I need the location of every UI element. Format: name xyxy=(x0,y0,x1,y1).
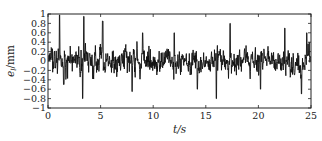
error-signal-line xyxy=(48,15,311,99)
x-tick-label: 5 xyxy=(98,110,104,121)
x-tick-label: 20 xyxy=(252,110,264,121)
x-axis-label: t/s xyxy=(173,123,187,135)
x-tick-label: 10 xyxy=(147,110,159,121)
svg-text:el/mm: el/mm xyxy=(4,45,18,77)
x-tick-label: 15 xyxy=(200,110,212,121)
x-tick-label: 25 xyxy=(305,110,317,121)
y-tick-label: −1 xyxy=(32,102,46,113)
y-axis-label: el/mm xyxy=(4,45,18,77)
time-series-chart: 0510152025 10.80.60.40.20−0.2−0.4−0.6−0.… xyxy=(0,0,322,141)
